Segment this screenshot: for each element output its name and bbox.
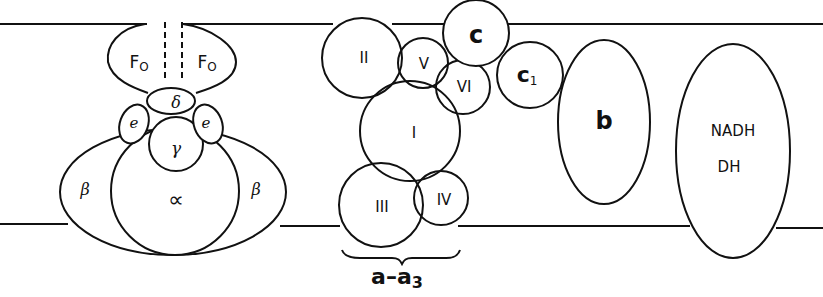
label-f0-left: FO	[129, 52, 148, 74]
label-beta-right: β	[250, 180, 260, 199]
label-f0-right: FO	[197, 52, 216, 74]
brace-a-a3	[342, 250, 460, 264]
f0-left-shape	[108, 24, 148, 93]
f0-right-shape	[183, 24, 236, 93]
membrane-diagram: FO FO δ e e γ ∝ β β II V VI I III IV a–a…	[0, 0, 823, 297]
label-nadh: NADH	[711, 122, 755, 140]
label-subunit-III: III	[375, 198, 388, 216]
label-gamma: γ	[171, 138, 182, 158]
subunit-I-shape	[360, 81, 460, 181]
label-cytochrome-c: c	[469, 21, 483, 49]
label-dh: DH	[718, 158, 741, 176]
nadh-dh-shape	[676, 44, 790, 258]
label-subunit-I: I	[412, 124, 416, 142]
label-a-a3: a–a3	[371, 264, 423, 292]
label-cytochrome-b: b	[595, 107, 612, 135]
label-epsilon-left: e	[130, 114, 139, 132]
label-beta-left: β	[79, 180, 89, 199]
label-alpha: ∝	[168, 187, 184, 212]
label-subunit-V: V	[419, 55, 430, 73]
label-subunit-II: II	[360, 49, 369, 67]
label-delta: δ	[171, 93, 181, 112]
label-epsilon-right: e	[202, 114, 211, 132]
label-subunit-VI: VI	[457, 78, 472, 96]
label-cytochrome-c1: c1	[517, 62, 538, 88]
label-subunit-IV: IV	[437, 191, 452, 209]
